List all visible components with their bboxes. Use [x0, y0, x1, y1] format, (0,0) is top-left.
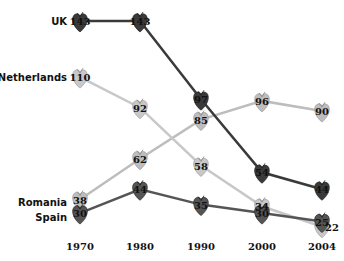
series-labels: 3862859690110925834223044353025143143975…	[0, 16, 339, 233]
x-tick-label: 2004	[308, 241, 336, 252]
data-label: 85	[194, 115, 208, 126]
data-label: 90	[315, 106, 329, 117]
x-tick-label: 1990	[187, 241, 215, 252]
series-name-spain: Spain	[35, 212, 67, 223]
x-tick-label: 1980	[126, 241, 154, 252]
data-label: 38	[73, 195, 87, 206]
line-chart: 3862859690110925834223044353025143143975…	[0, 0, 344, 261]
x-tick-label: 1970	[66, 241, 94, 252]
data-label: 30	[255, 208, 269, 219]
data-label: 44	[315, 184, 329, 195]
data-label: 58	[194, 161, 208, 172]
data-label: 97	[194, 94, 208, 105]
x-tick-label: 2000	[248, 241, 276, 252]
data-label: 62	[133, 154, 147, 165]
x-axis-ticks: 19701980199020002004	[66, 241, 336, 252]
series-name-netherlands: Netherlands	[0, 72, 67, 83]
data-label: 35	[194, 200, 208, 211]
data-label: 25	[315, 217, 329, 228]
data-label: 54	[255, 167, 269, 178]
data-label: 96	[255, 96, 269, 107]
data-label: 44	[133, 184, 147, 195]
data-label: 143	[130, 16, 151, 27]
series-name-uk: UK	[51, 16, 68, 27]
data-label: 143	[70, 16, 91, 27]
data-label: 92	[133, 103, 147, 114]
data-label: 30	[73, 208, 87, 219]
series-name-romania: Romania	[18, 197, 67, 208]
data-label: 110	[70, 72, 91, 83]
